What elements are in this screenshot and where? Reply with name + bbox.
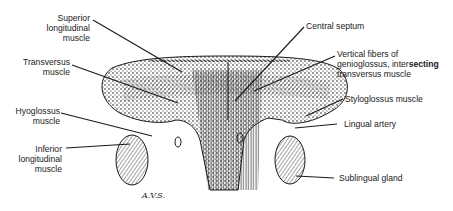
label-line: Vertical fibers of <box>337 49 439 59</box>
artist-signature: A.V.S. <box>142 191 165 200</box>
label-styloglossus-muscle: Styloglossus muscle <box>345 94 423 104</box>
left-sublingual-gland <box>116 135 148 185</box>
label-line: Inferior <box>0 144 62 154</box>
label-line: Central septum <box>306 21 364 31</box>
label-vertical-fibers-genioglossus: Vertical fibers of genioglossus, interse… <box>337 49 439 79</box>
label-bold-text: secting <box>409 59 439 69</box>
label-hyoglossus-muscle: Hyoglossus muscle <box>0 106 60 126</box>
label-line: muscle <box>0 116 60 126</box>
label-line: Transversus <box>10 57 70 67</box>
label-transversus-muscle: Transversus muscle <box>10 57 70 77</box>
label-line: Superior <box>30 13 90 23</box>
label-lingual-artery: Lingual artery <box>344 119 396 129</box>
label-line-text: genioglossus, inter <box>337 59 409 69</box>
label-line: muscle <box>10 67 70 77</box>
label-sublingual-gland: Sublingual gland <box>339 173 403 183</box>
left-lingual-artery <box>175 137 181 147</box>
label-central-septum: Central septum <box>306 21 364 31</box>
label-line: transversus muscle <box>337 69 439 79</box>
label-line: Hyoglossus <box>0 106 60 116</box>
label-line: muscle <box>0 164 62 174</box>
label-line: longitudinal <box>0 154 62 164</box>
label-line: Sublingual gland <box>339 173 403 183</box>
label-superior-longitudinal-muscle: Superior longitudinal muscle <box>30 13 90 43</box>
label-line: muscle <box>30 33 90 43</box>
label-inferior-longitudinal-muscle: Inferior longitudinal muscle <box>0 144 62 174</box>
label-line: Lingual artery <box>344 119 396 129</box>
label-line: Styloglossus muscle <box>345 94 423 104</box>
right-sublingual-gland <box>275 136 305 184</box>
label-line: genioglossus, intersecting <box>337 59 439 69</box>
label-line: longitudinal <box>30 23 90 33</box>
